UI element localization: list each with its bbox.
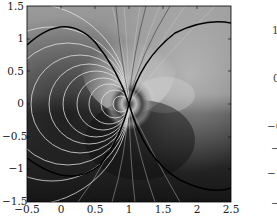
adjacent-panel-label: −	[271, 142, 277, 154]
adjacent-panel-label: 0	[273, 72, 277, 84]
adjacent-panel-label: −1	[267, 167, 277, 179]
y-tick-label: 0	[2, 97, 24, 109]
x-tick-label: 0.5	[80, 203, 110, 215]
x-tick-label: −0.5	[12, 203, 42, 215]
y-tick-label: 1.5	[2, 0, 24, 12]
x-tick-label: 2.5	[216, 203, 246, 215]
x-tick-label: 1	[114, 203, 144, 215]
plot-figure	[0, 0, 277, 217]
y-tick-label: −0.5	[2, 130, 24, 142]
adjacent-panel-label: 1	[272, 24, 277, 36]
x-tick-label: 1.5	[148, 203, 178, 215]
y-tick-label: 1	[2, 32, 24, 44]
y-tick-label: −1	[2, 162, 24, 174]
plot-area	[0, 3, 231, 205]
y-tick-label: 0.5	[2, 65, 24, 77]
x-tick-label: 0	[46, 203, 76, 215]
adjacent-panel-label: −0	[267, 120, 277, 132]
adjacent-panel-label: −	[271, 197, 277, 209]
x-tick-label: 2	[182, 203, 212, 215]
